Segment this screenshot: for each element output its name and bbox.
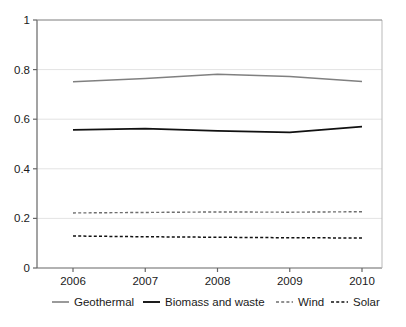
x-tick-label: 2008 — [205, 275, 231, 287]
y-tick-group: 00.20.40.60.81 — [14, 14, 37, 274]
chart-container: 00.20.40.60.81 20062007200820092010 Geot… — [0, 0, 406, 327]
legend-label-wind: Wind — [298, 296, 324, 308]
y-tick-label: 0.4 — [14, 163, 31, 175]
y-tick-label: 0 — [24, 262, 30, 274]
y-tick-label: 0.2 — [14, 212, 30, 224]
x-tick-label: 2009 — [277, 275, 303, 287]
x-tick-label: 2007 — [132, 275, 158, 287]
plot-area-background — [37, 20, 382, 268]
x-tick-group: 20062007200820092010 — [60, 268, 375, 287]
y-tick-label: 0.6 — [14, 113, 30, 125]
chart-legend: GeothermalBiomass and wasteWindSolar — [52, 296, 380, 308]
x-tick-label: 2006 — [60, 275, 86, 287]
legend-label-biomass-and-waste: Biomass and waste — [165, 296, 265, 308]
x-tick-label: 2010 — [349, 275, 375, 287]
y-tick-label: 1 — [24, 14, 30, 26]
y-tick-label: 0.8 — [14, 64, 30, 76]
line-chart: 00.20.40.60.81 20062007200820092010 Geot… — [0, 0, 406, 327]
legend-label-solar: Solar — [353, 296, 380, 308]
legend-label-geothermal: Geothermal — [74, 296, 134, 308]
